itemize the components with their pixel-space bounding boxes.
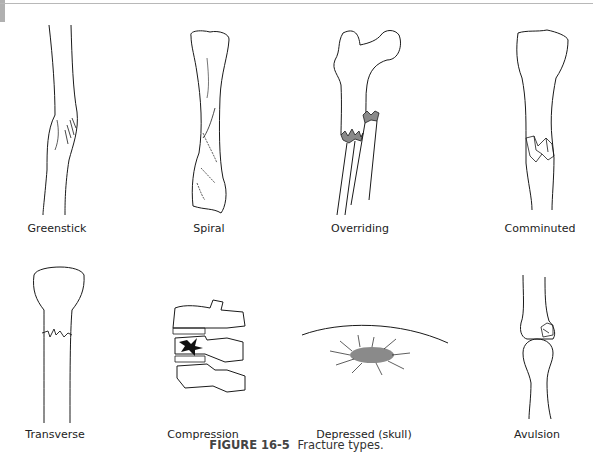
depressed-skull-illustration [300,325,450,385]
figure-number: FIGURE 16-5 [209,438,289,452]
skull-depression-icon [300,325,450,385]
spiral-bone-icon [185,28,235,218]
comminuted-label: Comminuted [505,222,576,235]
transverse-illustration [30,265,90,425]
overriding-illustration [325,25,405,215]
figure-caption-text: Fracture types. [297,438,383,452]
overriding-label: Overriding [331,222,389,235]
greenstick-bone-icon [35,20,95,220]
comminuted-bone-icon [512,28,572,213]
vertebrae-compression-icon [165,298,250,398]
avulsion-joint-icon [517,273,557,421]
spiral-illustration [185,28,235,218]
spiral-label: Spiral [193,222,224,235]
greenstick-label: Greenstick [28,222,87,235]
greenstick-illustration [35,20,95,220]
transverse-bone-icon [30,265,90,425]
overriding-femur-icon [325,25,405,215]
top-rule [0,3,593,4]
comminuted-illustration [512,28,572,213]
figure-caption: FIGURE 16-5 Fracture types. [0,438,593,452]
compression-illustration [165,298,250,398]
avulsion-illustration [517,273,557,421]
